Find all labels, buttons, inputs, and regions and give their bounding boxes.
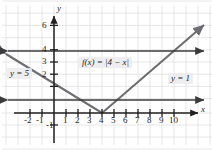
x-axis-name: x [201,105,205,114]
x-tick-label-7: 7 [135,116,140,125]
x-tick-label-8: 8 [147,116,152,125]
x-tick-label-3: 3 [87,116,92,125]
y-axis-name: y [57,4,61,13]
x-tick-label-10: 10 [169,116,178,125]
line-label-y1: y = 1 [168,73,193,84]
x-tick-label-neg2: -2 [24,116,32,125]
y-tick-label-neg1: -1 [46,121,54,130]
line-label-y5: y = 5 [7,68,32,79]
y-tick-label-4: 4 [42,45,47,54]
y-tick-label-6: 6 [42,21,47,30]
x-tick-label-5: 5 [111,116,116,125]
absolute-value-graph-figure: y x 6 4 3 2 -1 -2 -1 1 2 3 4 5 6 7 8 9 1… [0,0,212,150]
x-tick-label-9: 9 [159,116,164,125]
y-tick-label-3: 3 [42,57,47,66]
x-tick-label-1: 1 [63,116,68,125]
x-tick-label-2: 2 [75,116,80,125]
y-tick-label-2: 2 [42,70,47,79]
x-tick-label-neg1: -1 [36,116,44,125]
x-tick-label-6: 6 [123,116,128,125]
function-equation-label: f(x) = |4 − x| [79,57,132,68]
x-tick-label-4: 4 [99,116,104,125]
